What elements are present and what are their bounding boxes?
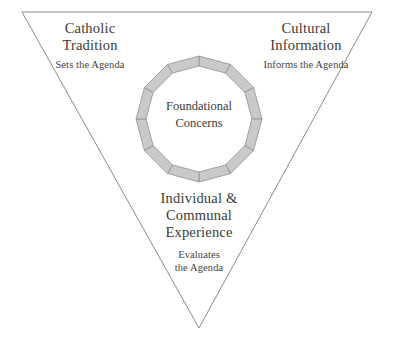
corner-label-catholic-tradition: Catholic Tradition Sets the Agenda [24, 20, 156, 72]
ring-segment [168, 56, 200, 73]
ring-segment [168, 165, 200, 182]
center-label-foundational-concerns: Foundational Concerns [144, 98, 254, 131]
corner-subtitle-cultural-information: Informs the Agenda [236, 59, 376, 71]
diagram-canvas: Catholic Tradition Sets the Agenda Cultu… [0, 0, 395, 347]
corner-title-cultural-information: Cultural Information [236, 20, 376, 54]
ring-segment [199, 56, 231, 73]
corner-subtitle-individual-communal-experience: Evaluates the Agenda [134, 249, 264, 274]
corner-label-cultural-information: Cultural Information Informs the Agenda [236, 20, 376, 72]
ring-segment [199, 165, 231, 182]
ring-segment [226, 146, 254, 174]
corner-subtitle-catholic-tradition: Sets the Agenda [24, 59, 156, 71]
ring-segment [144, 146, 172, 174]
corner-title-catholic-tradition: Catholic Tradition [24, 20, 156, 54]
corner-label-individual-communal-experience: Individual & Communal Experience Evaluat… [134, 190, 264, 274]
corner-title-individual-communal-experience: Individual & Communal Experience [134, 190, 264, 241]
